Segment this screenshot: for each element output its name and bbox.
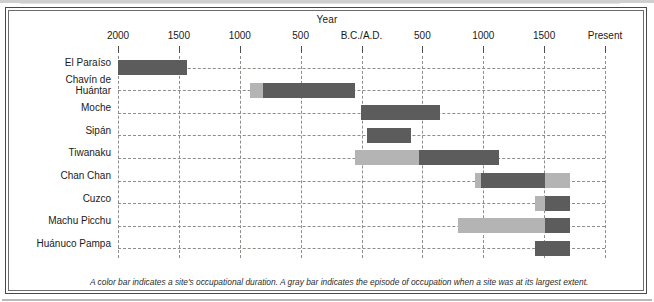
x-tick-mark-4: [362, 46, 363, 53]
x-tick-mark-5: [422, 46, 423, 53]
bar-segment-dark[interactable]: [545, 218, 570, 233]
x-tick-mark-7: [544, 46, 545, 53]
category-label-6: Cuzco: [0, 193, 116, 204]
bar-segment-dark[interactable]: [361, 105, 440, 120]
category-label-line: Chavín de: [0, 74, 116, 85]
bar-segment-dark[interactable]: [263, 83, 354, 98]
table-row[interactable]: [118, 105, 605, 120]
bar-segment-gray[interactable]: [355, 150, 419, 165]
category-label-line: Moche: [0, 102, 116, 113]
table-row[interactable]: [118, 218, 605, 233]
x-tick-mark-3: [301, 46, 302, 53]
bar-segment-dark[interactable]: [367, 128, 411, 143]
bar-segment-dark[interactable]: [545, 196, 570, 211]
category-label-line: Tiwanaku: [0, 147, 116, 158]
category-label-8: Huánuco Pampa: [0, 238, 116, 249]
category-label-line: Machu Picchu: [0, 215, 116, 226]
category-label-7: Machu Picchu: [0, 215, 116, 226]
category-label-line: Huánuco Pampa: [0, 238, 116, 249]
bar-segment-dark[interactable]: [535, 241, 570, 256]
bar-segment-dark[interactable]: [481, 173, 546, 188]
gridline-8: [605, 56, 606, 258]
page-bottom-edge: [2, 299, 652, 301]
bar-segment-gray[interactable]: [250, 83, 263, 98]
table-row[interactable]: [118, 128, 605, 143]
figure-caption: A color bar indicates a site's occupatio…: [90, 277, 610, 287]
category-label-4: Tiwanaku: [0, 147, 116, 158]
table-row[interactable]: [118, 241, 605, 256]
category-label-1: Chavín deHuántar: [0, 74, 116, 96]
x-tick-mark-6: [483, 46, 484, 53]
category-label-3: Sipán: [0, 125, 116, 136]
x-tick-label-8: Present: [565, 30, 645, 41]
bar-segment-dark[interactable]: [118, 60, 187, 75]
table-row[interactable]: [118, 150, 605, 165]
category-label-line: Cuzco: [0, 193, 116, 204]
table-row[interactable]: [118, 196, 605, 211]
bar-segment-gray[interactable]: [458, 218, 546, 233]
category-label-5: Chan Chan: [0, 170, 116, 181]
category-label-line: Huántar: [0, 85, 116, 96]
bar-segment-gray[interactable]: [535, 196, 545, 211]
x-tick-mark-2: [240, 46, 241, 53]
timeline-figure: Year 200015001000500B.C./A.D.50010001500…: [0, 0, 654, 302]
table-row[interactable]: [118, 83, 605, 98]
category-label-line: Chan Chan: [0, 170, 116, 181]
bar-segment-gray[interactable]: [545, 173, 569, 188]
table-row[interactable]: [118, 173, 605, 188]
axis-title: Year: [0, 14, 654, 25]
category-label-2: Moche: [0, 102, 116, 113]
x-tick-mark-8: [605, 46, 606, 53]
plot-area: [118, 56, 605, 258]
category-label-line: El Paraíso: [0, 57, 116, 68]
bar-segment-dark[interactable]: [419, 150, 499, 165]
page-top-hairline: [20, 3, 620, 4]
table-row[interactable]: [118, 60, 605, 75]
x-tick-mark-0: [118, 46, 119, 53]
category-label-line: Sipán: [0, 125, 116, 136]
category-label-0: El Paraíso: [0, 57, 116, 68]
x-tick-mark-1: [179, 46, 180, 53]
